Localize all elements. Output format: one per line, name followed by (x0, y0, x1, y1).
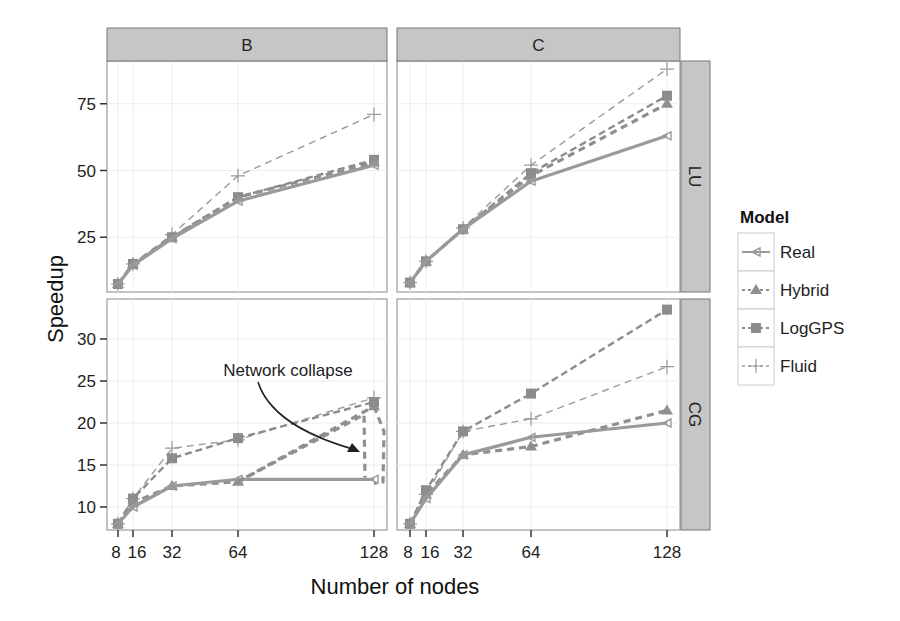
x-tick-label: 8 (111, 543, 120, 562)
chart-canvas: BCLUCG 255075101520253081632641288163264… (0, 0, 900, 621)
panel-CG-C (397, 299, 680, 531)
panel-CG-B (107, 299, 387, 531)
legend-item-real: Real (738, 233, 815, 271)
strip-CG: CG (681, 299, 710, 530)
svg-text:Real: Real (780, 243, 815, 262)
strip-B: B (107, 28, 387, 61)
y-tick-label: 30 (77, 330, 96, 349)
strip-LU: LU (681, 61, 710, 292)
svg-text:C: C (532, 36, 544, 55)
x-tick-label: 16 (421, 543, 440, 562)
svg-text:LogGPS: LogGPS (780, 319, 844, 338)
x-tick-label: 8 (403, 543, 412, 562)
legend-item-loggps: LogGPS (738, 309, 844, 347)
y-axis-label: Speedup (43, 255, 68, 343)
y-tick-label: 20 (77, 414, 96, 433)
y-tick-label: 75 (77, 95, 96, 114)
panel-LU-B (107, 61, 387, 292)
panel-LU-C (397, 61, 680, 292)
y-tick-label: 15 (77, 456, 96, 475)
svg-text:Fluid: Fluid (780, 357, 817, 376)
x-tick-label: 32 (454, 543, 473, 562)
x-axis-label: Number of nodes (311, 574, 480, 599)
y-tick-label: 25 (77, 372, 96, 391)
svg-text:LU: LU (685, 166, 704, 188)
legend-item-fluid: Fluid (738, 347, 817, 385)
x-tick-label: 128 (360, 543, 388, 562)
x-tick-label: 128 (653, 543, 681, 562)
faceted-speedup-chart: BCLUCG 255075101520253081632641288163264… (0, 0, 900, 621)
svg-text:CG: CG (685, 402, 704, 428)
panels-layer (107, 61, 680, 531)
y-tick-label: 50 (77, 162, 96, 181)
legend: Model RealHybridLogGPSFluid (738, 208, 844, 385)
legend-title: Model (740, 208, 789, 227)
y-tick-label: 25 (77, 228, 96, 247)
svg-text:Hybrid: Hybrid (780, 281, 829, 300)
x-tick-label: 64 (522, 543, 541, 562)
x-tick-label: 16 (128, 543, 147, 562)
strip-C: C (397, 28, 680, 61)
svg-text:B: B (241, 36, 252, 55)
legend-item-hybrid: Hybrid (738, 271, 829, 309)
annotation-text: Network collapse (223, 361, 352, 380)
y-tick-label: 10 (77, 498, 96, 517)
x-tick-label: 64 (229, 543, 248, 562)
x-tick-label: 32 (163, 543, 182, 562)
